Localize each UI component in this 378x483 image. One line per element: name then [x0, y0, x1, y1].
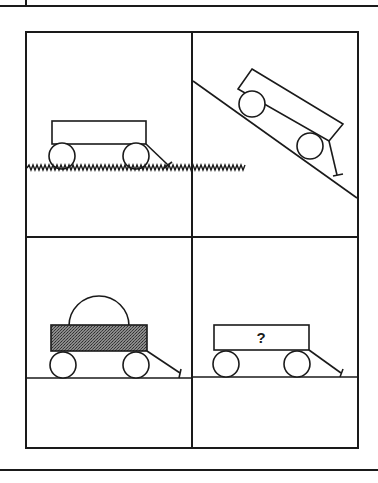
top-rule: [0, 0, 378, 6]
wagon-wheel-upper: [239, 91, 265, 117]
panel-grid: [26, 32, 358, 448]
wagon-wheel-front: [50, 352, 76, 378]
wagon-handle: [329, 141, 337, 175]
dome-load: [69, 296, 129, 326]
unknown-label: ?: [256, 329, 265, 346]
wagon-wheel-rear: [284, 351, 310, 377]
wagon-handle: [309, 350, 341, 373]
wagon-body: [52, 121, 146, 144]
wagon-wheel-front: [213, 351, 239, 377]
wagon-wheel-rear: [123, 352, 149, 378]
wagon-handle: [147, 351, 180, 373]
wagon-wheel-lower: [297, 133, 323, 159]
diagram-canvas: ?: [0, 0, 378, 483]
panel-top-right-wagon-on-incline: [193, 69, 357, 198]
wagon-body-shaded: [51, 325, 147, 351]
panel-top-left-wagon-on-grass: [27, 121, 245, 170]
panel-bottom-left-loaded-wagon: [27, 296, 191, 378]
panel-bottom-right-unknown-wagon: [193, 325, 357, 377]
